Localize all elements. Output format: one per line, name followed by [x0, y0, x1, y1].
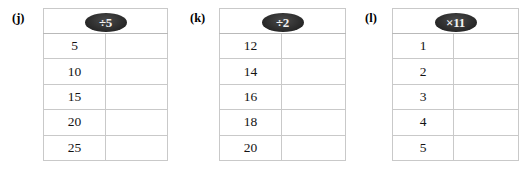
function-table-j: ÷5 5 10 15 20: [43, 8, 168, 161]
input-value-cell: 20: [220, 135, 282, 160]
table-row: 20: [220, 135, 346, 160]
output-answer-cell[interactable]: [454, 110, 519, 135]
input-value-cell: 14: [220, 59, 282, 84]
operation-badge-oval: ×11: [435, 13, 477, 32]
input-value-cell: 1: [393, 34, 454, 59]
table-row: 5: [393, 135, 519, 160]
input-value-cell: 20: [44, 110, 106, 135]
output-answer-cell[interactable]: [454, 84, 519, 109]
input-value-cell: 4: [393, 110, 454, 135]
input-value-cell: 18: [220, 110, 282, 135]
input-value-cell: 12: [220, 34, 282, 59]
table-row: 5: [44, 34, 168, 59]
input-value-cell: 25: [44, 135, 106, 160]
table-group-l: (l) ×11 1 2: [365, 0, 528, 171]
output-answer-cell[interactable]: [454, 34, 519, 59]
output-answer-cell[interactable]: [282, 135, 346, 160]
output-answer-cell[interactable]: [282, 34, 346, 59]
input-value-cell: 3: [393, 84, 454, 109]
table-row: 25: [44, 135, 168, 160]
table-label-l: (l): [365, 12, 377, 25]
table-row: 1: [393, 34, 519, 59]
output-answer-cell[interactable]: [106, 34, 168, 59]
input-value-cell: 5: [393, 135, 454, 160]
table-header-row: ÷5: [44, 9, 168, 34]
operation-cell: ÷2: [220, 9, 346, 34]
table-row: 3: [393, 84, 519, 109]
input-value-cell: 16: [220, 84, 282, 109]
function-table-k: ÷2 12 14 16 18: [219, 8, 346, 161]
table-label-j: (j): [12, 12, 25, 25]
output-answer-cell[interactable]: [282, 59, 346, 84]
output-answer-cell[interactable]: [282, 110, 346, 135]
table-row: 15: [44, 84, 168, 109]
table-row: 4: [393, 110, 519, 135]
output-answer-cell[interactable]: [106, 110, 168, 135]
operation-badge-oval: ÷5: [85, 13, 127, 32]
output-answer-cell[interactable]: [106, 84, 168, 109]
input-value-cell: 5: [44, 34, 106, 59]
table-group-k: (k) ÷2 12 14: [190, 0, 355, 171]
input-value-cell: 2: [393, 59, 454, 84]
output-answer-cell[interactable]: [106, 59, 168, 84]
function-table-l: ×11 1 2 3 4: [392, 8, 519, 161]
table-header-row: ×11: [393, 9, 519, 34]
table-row: 12: [220, 34, 346, 59]
table-row: 20: [44, 110, 168, 135]
output-answer-cell[interactable]: [454, 135, 519, 160]
operation-cell: ÷5: [44, 9, 168, 34]
table-group-j: (j) ÷5 5 10: [12, 0, 177, 171]
table-header-row: ÷2: [220, 9, 346, 34]
output-answer-cell[interactable]: [106, 135, 168, 160]
table-row: 14: [220, 59, 346, 84]
table-row: 16: [220, 84, 346, 109]
operation-badge-oval: ÷2: [262, 13, 304, 32]
worksheet-canvas: (j) ÷5 5 10: [0, 0, 528, 171]
output-answer-cell[interactable]: [454, 59, 519, 84]
table-label-k: (k): [190, 12, 205, 25]
output-answer-cell[interactable]: [282, 84, 346, 109]
table-row: 18: [220, 110, 346, 135]
table-row: 10: [44, 59, 168, 84]
table-row: 2: [393, 59, 519, 84]
input-value-cell: 15: [44, 84, 106, 109]
input-value-cell: 10: [44, 59, 106, 84]
operation-cell: ×11: [393, 9, 519, 34]
